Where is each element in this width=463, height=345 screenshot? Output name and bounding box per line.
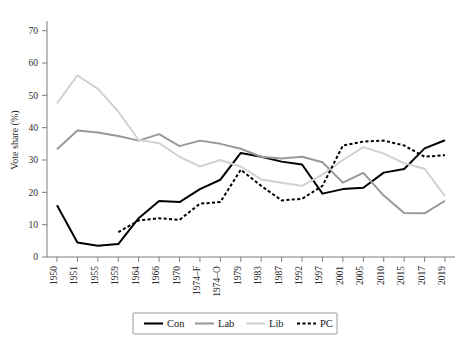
chart-legend: ConLabLibPC xyxy=(133,313,337,334)
x-tick-label: 1987 xyxy=(274,266,284,285)
x-tick-label: 1979 xyxy=(233,266,243,285)
x-tick-label: 1983 xyxy=(253,266,263,285)
legend-label-lib: Lib xyxy=(269,318,284,329)
legend-border xyxy=(133,313,337,334)
y-tick-label: 70 xyxy=(29,26,39,36)
y-tick-label: 20 xyxy=(29,188,39,198)
x-axis-tick-labels: 19501951195519591964196619701974–F1974–O… xyxy=(49,266,447,297)
vote-share-line-chart: 010203040506070 195019511955195919641966… xyxy=(0,0,463,345)
y-tick-label: 50 xyxy=(29,91,39,101)
x-tick-label: 1955 xyxy=(90,266,100,285)
y-tick-label: 0 xyxy=(33,252,38,262)
legend-label-con: Con xyxy=(167,318,185,329)
x-tick-label: 2015 xyxy=(396,266,406,285)
y-tick-label: 60 xyxy=(29,58,39,68)
x-tick-label: 1964 xyxy=(131,266,141,285)
chart-figure: 010203040506070 195019511955195919641966… xyxy=(0,0,463,345)
x-tick-label: 2019 xyxy=(437,266,447,285)
x-tick-label: 2010 xyxy=(376,266,386,285)
x-tick-label: 1970 xyxy=(172,266,182,285)
y-tick-label: 10 xyxy=(29,220,39,230)
x-tick-label: 1997 xyxy=(314,266,324,285)
legend-label-lab: Lab xyxy=(218,318,234,329)
x-tick-label: 1974–O xyxy=(212,266,222,297)
y-tick-label: 40 xyxy=(29,123,39,133)
x-tick-label: 1974–F xyxy=(192,266,202,295)
x-tick-label: 2005 xyxy=(355,266,365,285)
series-lines xyxy=(57,75,445,245)
x-tick-label: 1966 xyxy=(151,266,161,285)
x-tick-label: 1959 xyxy=(110,266,120,285)
y-axis-title: Vote share (%) xyxy=(9,110,21,169)
series-line-pc xyxy=(118,141,445,232)
x-tick-label: 2017 xyxy=(417,266,427,285)
x-axis-ticks xyxy=(57,257,445,262)
x-tick-label: 1950 xyxy=(49,266,59,285)
y-tick-label: 30 xyxy=(29,155,39,165)
legend-label-pc: PC xyxy=(320,318,333,329)
x-tick-label: 1951 xyxy=(69,266,79,285)
x-tick-label: 1992 xyxy=(294,266,304,285)
x-tick-label: 2001 xyxy=(335,266,345,285)
y-axis-ticks: 010203040506070 xyxy=(29,26,48,262)
